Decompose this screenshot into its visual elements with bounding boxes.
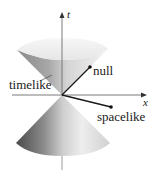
t-axis-label: t [67, 8, 71, 20]
t-axis-arrow-icon [60, 12, 65, 18]
x-axis-label: x [142, 96, 148, 108]
timelike-label: timelike [9, 77, 52, 92]
spacelike-label: spacelike [97, 109, 146, 124]
null-label: null [93, 63, 114, 78]
past-light-cone [16, 95, 110, 156]
light-cone-diagram: t x null spacelike timelike [0, 0, 158, 174]
null-point [88, 65, 92, 69]
